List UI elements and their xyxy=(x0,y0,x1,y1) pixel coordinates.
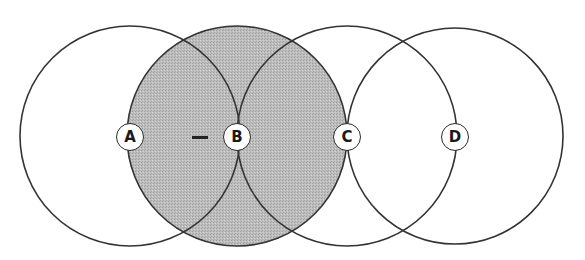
dash-mark xyxy=(192,136,208,139)
circles-layer xyxy=(0,0,585,260)
node-a-label: A xyxy=(116,123,144,151)
node-d-label: D xyxy=(441,123,469,151)
node-b-label: B xyxy=(223,123,251,151)
node-c-label: C xyxy=(333,123,361,151)
diagram-canvas: A B C D xyxy=(0,0,585,260)
